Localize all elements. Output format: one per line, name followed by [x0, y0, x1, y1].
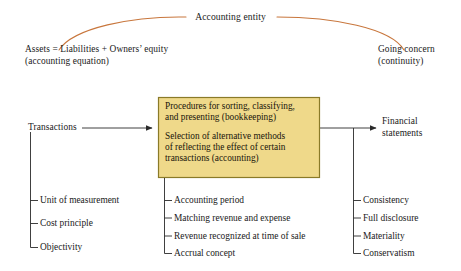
- accounting-equation-line1: Assets = Liabilities + Owners’ equity: [25, 44, 168, 54]
- financial-statements-line2: statements: [382, 128, 423, 140]
- accounting-line2: of reflecting the effect of certain: [165, 142, 285, 152]
- list-item: Cost principle: [40, 218, 93, 229]
- going-concern-line2: (continuity): [378, 56, 435, 68]
- transactions-label: Transactions: [28, 122, 77, 134]
- list-item: Consistency: [363, 195, 409, 206]
- going-concern-line1: Going concern: [378, 44, 435, 54]
- accounting-equation-block: Assets = Liabilities + Owners’ equity (a…: [25, 44, 168, 67]
- list-item: Accrual concept: [174, 248, 235, 259]
- financial-statements-line1: Financial: [382, 116, 418, 126]
- accounting-paragraph: Selection of alternative methods of refl…: [165, 131, 315, 165]
- accounting-line3: transactions (accounting): [165, 153, 259, 163]
- list-item: Conservatism: [363, 248, 415, 259]
- list-item: Full disclosure: [363, 213, 418, 224]
- bookkeeping-line2: and presenting (bookkeeping): [165, 112, 276, 122]
- bookkeeping-line1: Procedures for sorting, classifying,: [165, 101, 295, 111]
- bookkeeping-paragraph: Procedures for sorting, classifying, and…: [165, 101, 315, 124]
- list-item: Objectivity: [40, 242, 82, 253]
- accounting-concepts-diagram: Accounting entity Assets = Liabilities +…: [0, 0, 461, 271]
- list-item: Matching revenue and expense: [174, 213, 290, 224]
- financial-statements-label: Financial statements: [382, 116, 423, 139]
- accounting-equation-line2: (accounting equation): [25, 56, 168, 68]
- going-concern-block: Going concern (continuity): [378, 44, 435, 67]
- list-item: Unit of measurement: [40, 195, 119, 206]
- list-item: Revenue recognized at time of sale: [174, 231, 305, 242]
- accounting-entity-label: Accounting entity: [0, 11, 461, 23]
- list-item: Accounting period: [174, 195, 244, 206]
- center-box-content: Procedures for sorting, classifying, and…: [165, 101, 315, 164]
- accounting-line1: Selection of alternative methods: [165, 131, 285, 141]
- list-item: Materiality: [363, 231, 405, 242]
